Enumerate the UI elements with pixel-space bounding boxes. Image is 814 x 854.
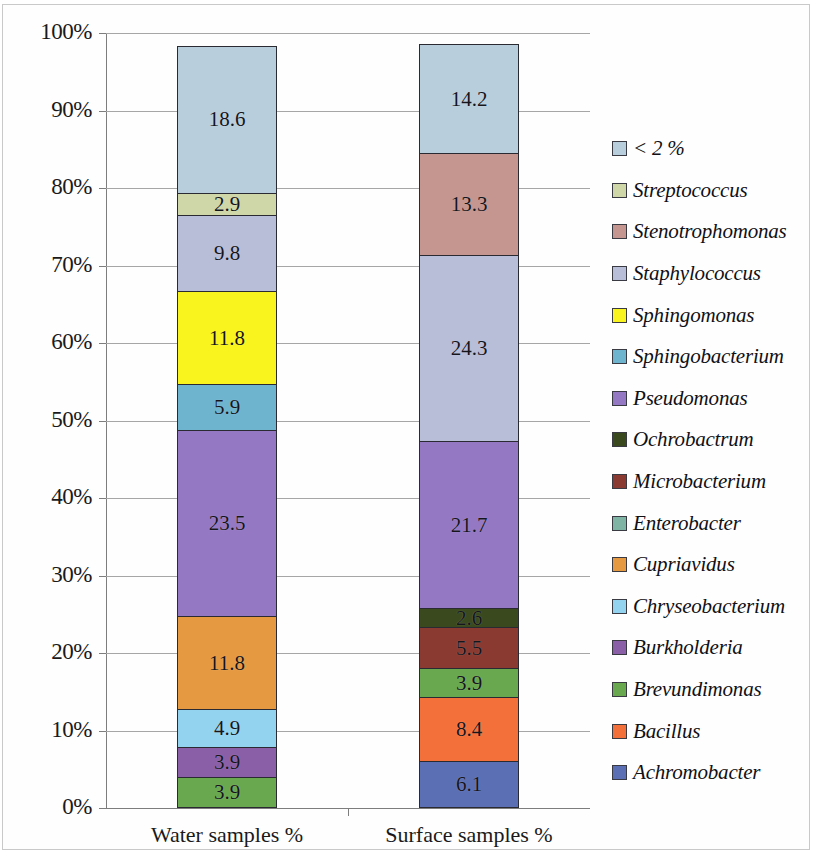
bar-segment-value: 5.5 bbox=[456, 638, 482, 659]
legend-item-bacillus[interactable]: Bacillus bbox=[612, 710, 812, 752]
bar-segment-value: 2.6 bbox=[456, 608, 482, 628]
legend-swatch-icon bbox=[612, 391, 627, 406]
y-axis-tick-label: 70% bbox=[51, 252, 92, 278]
y-axis-tick-label: 0% bbox=[62, 794, 92, 820]
bar-segment: 24.3 bbox=[419, 255, 519, 443]
legend-swatch-icon bbox=[612, 724, 627, 739]
bar-segment-value: 2.9 bbox=[214, 194, 240, 215]
bar-segment: 3.9 bbox=[177, 747, 277, 778]
bar-segment-value: 14.2 bbox=[451, 89, 488, 110]
legend-item-label: Chryseobacterium bbox=[633, 594, 785, 619]
legend-item-cupriavidus[interactable]: Cupriavidus bbox=[612, 544, 812, 586]
bar-segment: 5.5 bbox=[419, 627, 519, 670]
legend-item-label: Ochrobactrum bbox=[633, 427, 753, 452]
legend-item-label: Microbacterium bbox=[633, 469, 766, 494]
legend-item-burkholderia[interactable]: Burkholderia bbox=[612, 627, 812, 669]
bar-segment: 21.7 bbox=[419, 441, 519, 609]
legend-item-microbacterium[interactable]: Microbacterium bbox=[612, 461, 812, 503]
legend-item-brevundimonas[interactable]: Brevundimonas bbox=[612, 669, 812, 711]
legend-item-label: Bacillus bbox=[633, 719, 700, 744]
y-axis-tick-label: 100% bbox=[40, 19, 92, 45]
bar-segment-value: 9.8 bbox=[214, 243, 240, 264]
bar-segment-value: 24.3 bbox=[451, 338, 488, 359]
y-axis-tick-label: 20% bbox=[51, 639, 92, 665]
legend-item-pseudomonas[interactable]: Pseudomonas bbox=[612, 378, 812, 420]
bar-segment: 14.2 bbox=[419, 44, 519, 154]
legend-item-label: < 2 % bbox=[633, 136, 685, 161]
legend-item-streptococcus[interactable]: Streptococcus bbox=[612, 170, 812, 212]
bar-segment: 9.8 bbox=[177, 215, 277, 293]
legend-swatch-icon bbox=[612, 640, 627, 655]
plot-area: 18.62.99.811.85.923.511.84.93.93.914.213… bbox=[106, 33, 590, 808]
legend-swatch-icon bbox=[612, 682, 627, 697]
y-axis-tick-label: 60% bbox=[51, 329, 92, 355]
legend-item-label: Cupriavidus bbox=[633, 552, 735, 577]
bar-segment-value: 5.9 bbox=[214, 397, 240, 418]
legend-swatch-icon bbox=[612, 141, 627, 156]
bar-segment-value: 21.7 bbox=[451, 515, 488, 536]
bar-segment: 5.9 bbox=[177, 384, 277, 431]
y-axis-tick bbox=[99, 653, 106, 654]
legend-item-label: Sphingomonas bbox=[633, 303, 754, 328]
y-axis-tick bbox=[99, 33, 106, 34]
bar-segment: 18.6 bbox=[177, 46, 277, 195]
legend-swatch-icon bbox=[612, 474, 627, 489]
bar-segment: 11.8 bbox=[177, 291, 277, 385]
bar-1: 18.62.99.811.85.923.511.84.93.93.9 bbox=[177, 46, 277, 808]
legend-swatch-icon bbox=[612, 349, 627, 364]
bar-segment: 2.6 bbox=[419, 608, 519, 628]
legend-swatch-icon bbox=[612, 765, 627, 780]
y-axis-tick bbox=[99, 576, 106, 577]
y-axis-tick-label: 50% bbox=[51, 407, 92, 433]
legend-item-ochrobactrum[interactable]: Ochrobactrum bbox=[612, 419, 812, 461]
bar-segment: 11.8 bbox=[177, 616, 277, 710]
legend-swatch-icon bbox=[612, 224, 627, 239]
bar-2: 14.213.324.321.72.65.53.98.46.1 bbox=[419, 44, 519, 808]
legend-item-2[interactable]: < 2 % bbox=[612, 128, 812, 170]
legend-item-label: Sphingobacterium bbox=[633, 344, 784, 369]
bar-segment-value: 13.3 bbox=[451, 194, 488, 215]
legend-item-enterobacter[interactable]: Enterobacter bbox=[612, 502, 812, 544]
bar-segment-value: 4.9 bbox=[214, 718, 240, 739]
x-axis-tick-label: Surface samples % bbox=[319, 822, 619, 848]
bar-segment-value: 6.1 bbox=[456, 774, 482, 795]
bar-segment: 23.5 bbox=[177, 430, 277, 618]
bar-segment-value: 3.9 bbox=[456, 673, 482, 694]
legend-item-sphingobacterium[interactable]: Sphingobacterium bbox=[612, 336, 812, 378]
legend-item-label: Burkholderia bbox=[633, 635, 743, 660]
bar-segment: 8.4 bbox=[419, 697, 519, 762]
legend-swatch-icon bbox=[612, 308, 627, 323]
y-axis-tick bbox=[99, 111, 106, 112]
legend-swatch-icon bbox=[612, 599, 627, 614]
legend-item-label: Brevundimonas bbox=[633, 677, 761, 702]
legend-item-chryseobacterium[interactable]: Chryseobacterium bbox=[612, 586, 812, 628]
legend-swatch-icon bbox=[612, 557, 627, 572]
legend-item-achromobacter[interactable]: Achromobacter bbox=[612, 752, 812, 794]
legend-item-staphylococcus[interactable]: Staphylococcus bbox=[612, 253, 812, 295]
legend-item-label: Streptococcus bbox=[633, 178, 747, 203]
bar-segment: 13.3 bbox=[419, 153, 519, 256]
legend-swatch-icon bbox=[612, 432, 627, 447]
bar-segment: 3.9 bbox=[177, 777, 277, 808]
y-axis-tick-label: 30% bbox=[51, 562, 92, 588]
legend-item-label: Enterobacter bbox=[633, 511, 741, 536]
bar-segment-value: 11.8 bbox=[209, 653, 245, 674]
legend-item-label: Pseudomonas bbox=[633, 386, 747, 411]
legend-item-sphingomonas[interactable]: Sphingomonas bbox=[612, 294, 812, 336]
bar-segment-value: 8.4 bbox=[456, 719, 482, 740]
y-axis-tick-label: 80% bbox=[51, 174, 92, 200]
chart-legend: < 2 %StreptococcusStenotrophomonasStaphy… bbox=[612, 128, 812, 794]
gridline bbox=[106, 33, 590, 34]
stacked-bar-chart: 18.62.99.811.85.923.511.84.93.93.914.213… bbox=[0, 0, 814, 854]
bar-segment: 4.9 bbox=[177, 709, 277, 748]
y-axis-tick bbox=[99, 343, 106, 344]
legend-swatch-icon bbox=[612, 266, 627, 281]
legend-item-stenotrophomonas[interactable]: Stenotrophomonas bbox=[612, 211, 812, 253]
y-axis-tick bbox=[99, 731, 106, 732]
bar-segment-value: 3.9 bbox=[214, 752, 240, 773]
legend-swatch-icon bbox=[612, 516, 627, 531]
y-axis-tick-label: 40% bbox=[51, 484, 92, 510]
y-axis-tick bbox=[99, 266, 106, 267]
bar-segment: 3.9 bbox=[419, 668, 519, 698]
bar-segment: 6.1 bbox=[419, 761, 519, 808]
